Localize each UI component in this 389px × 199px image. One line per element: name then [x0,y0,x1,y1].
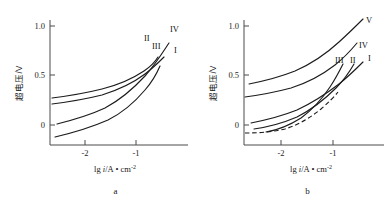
panel-a-axes [50,20,188,145]
panel-a-curves [52,43,169,137]
x-axis-title-sup-b: -2 [327,164,332,170]
panel-b-plot: 1.0 0.5 0 -2 -1 超电压/V lg i/A • cm-2 V [194,0,389,199]
curve-b-III [266,64,343,132]
ytick-label-0-a: 0 [41,120,45,130]
ytick-label-0_5-a: 0.5 [34,70,45,80]
curve-label-b-IV: IV [359,40,369,50]
panel-a-curve-labels: II III IV I [144,24,180,55]
x-axis-title-a: lg i/A • cm-2 [94,164,136,175]
xtick-label-neg2-a: -2 [81,148,88,158]
y-axis-title-b: 超电压/V [208,65,218,100]
x-axis-title-rest-b: /A • cm [301,164,327,174]
curve-label-a-II: II [144,33,150,43]
ytick-label-0-b: 0 [235,120,239,130]
panel-a: 1.0 0.5 0 -2 -1 超电压/V lg i/A • cm-2 II I… [0,0,195,199]
curve-label-a-IV: IV [170,24,180,34]
curve-label-a-III: III [152,41,161,51]
ytick-label-0_5-b: 0.5 [228,70,239,80]
x-axis-title-prefix-a: lg [94,164,103,174]
x-axis-title-sup-a: -2 [131,164,136,170]
curve-label-b-I: I [368,53,371,63]
curve-label-b-II: II [350,55,356,65]
xtick-label-neg1-a: -1 [132,148,139,158]
y-axis-title-a: 超电压/V [14,65,24,100]
x-axis-title-b: lg i/A • cm-2 [290,164,332,175]
panel-b-tick-labels: 1.0 0.5 0 -2 -1 [228,21,336,158]
axis-lines-a [50,20,188,145]
curve-a-II [52,57,158,98]
curve-b-V [249,19,363,84]
panel-b: 1.0 0.5 0 -2 -1 超电压/V lg i/A • cm-2 V [194,0,389,199]
panel-b-caption: b [194,186,389,196]
ytick-label-1-a: 1.0 [34,21,45,31]
curve-label-a-I: I [174,45,177,55]
panel-b-axes [244,20,384,145]
axis-lines-b [244,20,384,145]
xtick-label-neg1-b: -1 [329,148,336,158]
figure-container: 1.0 0.5 0 -2 -1 超电压/V lg i/A • cm-2 II I… [0,0,389,199]
curve-label-b-V: V [366,15,373,25]
x-axis-title-rest-a: /A • cm [105,164,131,174]
curve-a-III [52,57,164,104]
curve-label-b-III: III [335,55,344,65]
curve-a-IV [57,43,169,124]
xtick-label-neg2-b: -2 [277,148,284,158]
panel-b-curves [245,19,363,133]
panel-a-caption: a [0,186,213,196]
x-axis-title-prefix-b: lg [290,164,299,174]
ytick-label-1-b: 1.0 [228,21,239,31]
panel-a-plot: 1.0 0.5 0 -2 -1 超电压/V lg i/A • cm-2 II I… [0,0,195,199]
